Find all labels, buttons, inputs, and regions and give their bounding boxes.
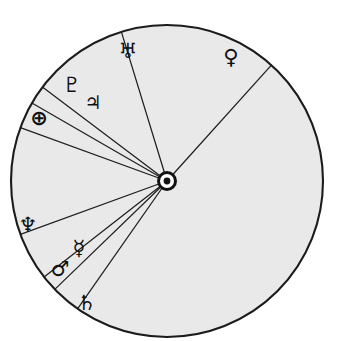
planet-glyph-neptune: ♆: [19, 213, 38, 237]
planet-glyph-jupiter: ♃: [84, 91, 101, 113]
planet-glyph-earth: ⊕: [30, 106, 48, 130]
planet-glyph-mars: ♂: [51, 257, 70, 281]
sun-hub-dot: [164, 178, 171, 185]
planetary-wheel-figure: ♅♀♇♃⊕♆☿♂♄: [0, 0, 342, 341]
sun-hub: [159, 173, 176, 190]
planet-glyph-pluto: ♇: [63, 73, 82, 97]
wheel-svg: ♅♀♇♃⊕♆☿♂♄: [0, 0, 342, 341]
planet-glyph-saturn: ♄: [78, 291, 97, 315]
planet-glyph-venus: ♀: [223, 45, 238, 69]
planet-glyph-mercury: ☿: [73, 236, 86, 260]
planet-glyph-uranus: ♅: [119, 39, 138, 63]
